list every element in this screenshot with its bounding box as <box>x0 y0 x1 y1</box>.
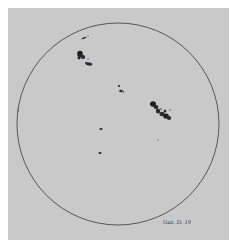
sunspot-drawing: a a <box>0 0 233 245</box>
solar-disk-outline <box>17 23 219 225</box>
spot-isolated-pore <box>157 139 158 140</box>
figure-caption: Gaz. D. 19 <box>163 219 191 225</box>
spot-group-ne-streak <box>81 36 88 40</box>
svg-text:a: a <box>169 108 171 112</box>
svg-text:a: a <box>87 57 89 61</box>
spot-group-west: a <box>150 101 171 120</box>
spot-south-upper <box>99 128 102 130</box>
spot-group-central <box>118 85 124 93</box>
spot-group-ne: a <box>77 51 92 66</box>
spot-south-lower <box>98 152 101 154</box>
